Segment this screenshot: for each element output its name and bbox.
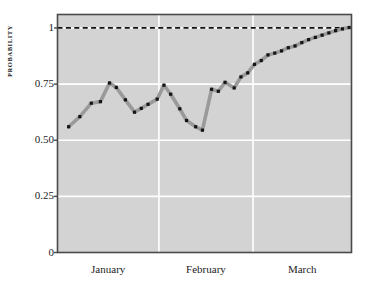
data-point-marker (223, 81, 226, 84)
data-point-marker (239, 75, 242, 78)
x-tick-label: January (58, 263, 158, 275)
data-point-marker (162, 84, 165, 87)
y-axis-title: PROBABILITY (6, 6, 13, 96)
data-point-marker (124, 98, 127, 101)
data-point-marker (146, 103, 149, 106)
data-point-marker (67, 125, 70, 128)
data-point-marker (78, 115, 81, 118)
data-point-marker (280, 49, 283, 52)
chart-figure: PROBABILITY 00.250.500.751 JanuaryFebrua… (0, 0, 374, 286)
plot-canvas (0, 0, 374, 286)
data-point-marker (300, 41, 303, 44)
data-point-marker (185, 119, 188, 122)
y-tick-label: 0.25 (20, 190, 54, 201)
data-point-marker (156, 98, 159, 101)
plot-background (58, 15, 352, 253)
data-point-marker (133, 111, 136, 114)
data-point-marker (99, 100, 102, 103)
data-point-marker (253, 63, 256, 66)
y-tick-label: 0 (20, 247, 54, 258)
data-point-marker (266, 53, 269, 56)
data-point-marker (90, 102, 93, 105)
data-point-marker (314, 36, 317, 39)
data-point-marker (334, 29, 337, 32)
data-point-marker (273, 52, 276, 55)
data-point-marker (140, 107, 143, 110)
data-point-marker (217, 90, 220, 93)
data-point-marker (321, 34, 324, 37)
data-point-marker (293, 44, 296, 47)
data-point-marker (287, 46, 290, 49)
data-point-marker (307, 38, 310, 41)
data-point-marker (178, 107, 181, 110)
data-point-marker (169, 93, 172, 96)
data-point-marker (260, 59, 263, 62)
data-point-marker (246, 71, 249, 74)
data-point-marker (348, 26, 351, 29)
data-point-marker (194, 125, 197, 128)
data-point-marker (210, 88, 213, 91)
data-point-marker (108, 81, 111, 84)
y-tick-label: 0.75 (20, 78, 54, 89)
x-tick-label: March (252, 263, 352, 275)
data-point-marker (327, 31, 330, 34)
x-tick-label: February (156, 263, 256, 275)
data-point-marker (115, 86, 118, 89)
data-point-marker (201, 129, 204, 132)
data-point-marker (341, 27, 344, 30)
y-tick-label: 0.50 (20, 134, 54, 145)
data-point-marker (233, 86, 236, 89)
y-tick-label: 1 (20, 22, 54, 33)
